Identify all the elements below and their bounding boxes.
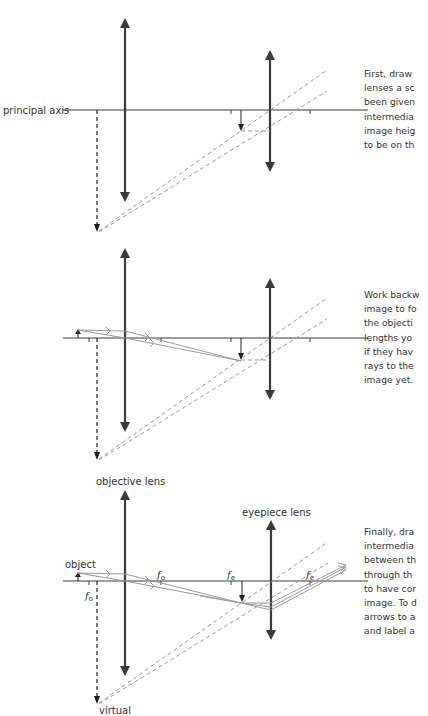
instruction-line: to be on th: [364, 138, 428, 152]
fo-label-right: fo: [156, 569, 165, 582]
ray-center: [78, 330, 241, 361]
virtual-image-label: virtual: [99, 705, 131, 716]
instruction-line: image to fo: [364, 302, 428, 316]
instruction-line: been given: [364, 95, 428, 109]
instruction-line: image yet.: [364, 373, 428, 387]
step2-diagram: [63, 248, 368, 460]
virtual-image-arrow: [94, 338, 100, 460]
instruction-line: rays to the: [364, 359, 428, 373]
virtual-image-arrow: [94, 581, 100, 704]
objective-lens-label: objective lens: [96, 476, 165, 487]
construction-ray: [99, 70, 327, 231]
eyepiece-lens-icon: [266, 520, 276, 640]
instruction-line: arrows to a: [364, 610, 428, 624]
instruction-line: the objecti: [364, 316, 428, 330]
fo-label-left: fo: [84, 590, 93, 603]
step2-instructions: Work backw image to fo the objecti lengt…: [364, 288, 428, 387]
instruction-line: lenses a sc: [364, 81, 428, 95]
objective-lens-icon: [120, 248, 130, 432]
instruction-line: lengths yo: [364, 331, 428, 345]
object-label: object: [65, 559, 96, 570]
eyepiece-lens-icon: [265, 278, 275, 400]
eyepiece-lens-icon: [265, 50, 275, 172]
instruction-line: between th: [364, 553, 428, 567]
construction-ray: [99, 542, 328, 703]
instruction-line: Work backw: [364, 288, 428, 302]
fe-label-right: fe: [305, 569, 314, 582]
instruction-line: intermedia: [364, 539, 428, 553]
eyepiece-lens-label: eyepiece lens: [242, 507, 311, 518]
instruction-line: if they hav: [364, 345, 428, 359]
ray-eyepiece-3: [241, 570, 346, 610]
step1-instructions: First, draw lenses a sc been given inter…: [364, 67, 428, 152]
construction-ray: [99, 91, 327, 232]
instruction-line: to have cor: [364, 582, 428, 596]
intermediate-image-arrow: [239, 581, 245, 602]
instruction-line: intermedia: [364, 110, 428, 124]
construction-ray: [99, 298, 327, 459]
instruction-line: image. To d: [364, 596, 428, 610]
instruction-line: First, draw: [364, 67, 428, 81]
intermediate-image-arrow: [238, 110, 244, 131]
instruction-line: Finally, dra: [364, 525, 428, 539]
principal-axis-label: principal axis: [3, 105, 69, 116]
objective-lens-icon: [120, 490, 130, 676]
step3-instructions: Finally, dra intermedia between th throu…: [364, 525, 428, 639]
construction-ray: [99, 319, 327, 460]
instruction-line: image heig: [364, 124, 428, 138]
construction-ray: [99, 563, 328, 704]
fe-label-left: fe: [226, 569, 235, 582]
instruction-line: and label a: [364, 624, 428, 638]
step3-diagram: objective lens eyepiece lens object virt…: [63, 476, 368, 716]
instruction-line: through th: [364, 568, 428, 582]
virtual-image-arrow: [94, 110, 100, 232]
step1-diagram: principal axis: [3, 18, 368, 232]
